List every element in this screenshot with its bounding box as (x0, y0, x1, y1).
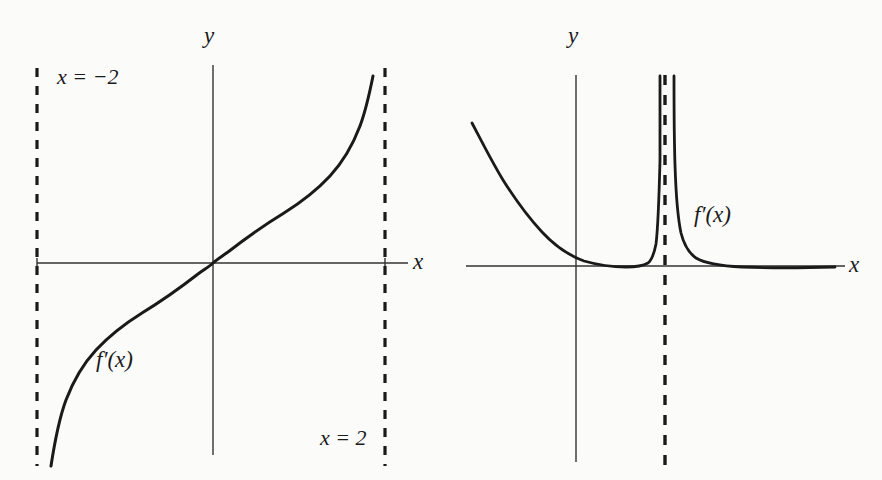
left-y-axis-label: y (204, 24, 214, 47)
figure-canvas (0, 0, 882, 480)
right-curve-f-prime-right-branch (674, 76, 835, 268)
left-panel (37, 65, 408, 466)
left-asymptote-label-x-plus-2: x = 2 (320, 427, 367, 449)
right-curve-f-prime (472, 76, 660, 267)
left-asymptote-label-x-minus-2: x = −2 (57, 66, 118, 88)
right-x-axis-label: x (849, 253, 859, 276)
left-x-axis-label: x (413, 250, 423, 273)
figure-two-derivative-graphs: y x x = −2 x = 2 f′(x) y x f′(x) (0, 0, 882, 480)
right-curve-label-f-prime: f′(x) (694, 203, 731, 226)
right-panel (466, 75, 845, 466)
left-curve-label-f-prime: f′(x) (96, 348, 133, 371)
left-curve-f-prime (51, 76, 373, 466)
right-y-axis-label: y (568, 24, 578, 47)
